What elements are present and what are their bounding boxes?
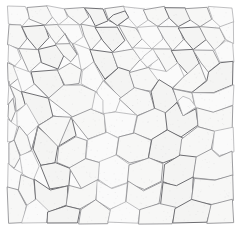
grain-speckle bbox=[116, 111, 117, 112]
grain-speckle bbox=[175, 61, 176, 62]
grain-speckle bbox=[178, 99, 179, 100]
grain-speckle bbox=[42, 107, 43, 108]
grain-speckle bbox=[166, 69, 167, 70]
grain-speckle bbox=[96, 134, 97, 135]
grain-speckle bbox=[51, 191, 52, 192]
grain-speckle bbox=[132, 58, 133, 59]
grain-speckle bbox=[31, 184, 32, 185]
grain-speckle bbox=[141, 203, 142, 204]
grain-speckle bbox=[77, 110, 78, 111]
grain-speckle bbox=[54, 203, 55, 204]
grain-speckle bbox=[130, 30, 131, 31]
grain-speckle bbox=[129, 146, 130, 147]
grain-speckle bbox=[105, 26, 106, 27]
grain-speckle bbox=[152, 102, 153, 103]
grain-speckle bbox=[92, 202, 93, 203]
grain-speckle bbox=[61, 171, 62, 172]
grain-speckle bbox=[15, 60, 16, 61]
grain-speckle bbox=[176, 14, 177, 15]
grain-speckle bbox=[223, 85, 224, 86]
grain-speckle bbox=[88, 143, 89, 144]
grain-speckle bbox=[121, 219, 122, 220]
grain-speckle bbox=[169, 149, 170, 150]
grain-speckle bbox=[196, 119, 197, 120]
grain-speckle bbox=[218, 121, 219, 122]
grain-speckle bbox=[39, 202, 40, 203]
grain-speckle bbox=[130, 181, 131, 182]
grain-speckle bbox=[28, 145, 29, 146]
grain-speckle bbox=[165, 153, 166, 154]
grain-speckle bbox=[175, 84, 176, 85]
grain-speckle bbox=[222, 123, 223, 124]
grain-speckle bbox=[63, 89, 64, 90]
grain-speckle bbox=[68, 68, 69, 69]
grain-speckle bbox=[25, 33, 26, 34]
grain-speckle bbox=[121, 81, 122, 82]
grain-speckle bbox=[188, 211, 189, 212]
grain-speckle bbox=[11, 14, 12, 15]
grain-speckle bbox=[130, 116, 131, 117]
grain-speckle bbox=[136, 71, 137, 72]
grain-speckle bbox=[68, 153, 69, 154]
micrograph-canvas bbox=[0, 0, 241, 234]
grain-speckle bbox=[148, 137, 149, 138]
grain-speckle bbox=[91, 79, 92, 80]
grain-speckle bbox=[171, 69, 172, 70]
grain-speckle bbox=[96, 113, 97, 114]
grain-speckle bbox=[38, 151, 39, 152]
grain-speckle bbox=[169, 216, 170, 217]
grain-speckle bbox=[223, 124, 224, 125]
grain-speckle bbox=[39, 28, 40, 29]
grain-speckle bbox=[183, 22, 184, 23]
grain-speckle bbox=[117, 101, 118, 102]
grain-speckle bbox=[203, 73, 204, 74]
grain-speckle bbox=[230, 182, 231, 183]
grain-speckle bbox=[130, 152, 131, 153]
grain-speckle bbox=[171, 210, 172, 211]
grain-speckle bbox=[141, 89, 142, 90]
grain-speckle bbox=[202, 139, 203, 140]
grain-speckle bbox=[21, 125, 22, 126]
grain-speckle bbox=[36, 108, 37, 109]
grain-speckle bbox=[93, 119, 94, 120]
grain-speckle bbox=[11, 63, 12, 64]
grain-speckle bbox=[12, 137, 13, 138]
grain-speckle bbox=[28, 206, 29, 207]
grain-speckle bbox=[81, 205, 82, 206]
grain-speckle bbox=[54, 86, 55, 87]
grain-speckle bbox=[229, 192, 230, 193]
grain-speckle bbox=[165, 116, 166, 117]
grain-speckle bbox=[20, 19, 21, 20]
grain-speckle bbox=[189, 135, 190, 136]
grain-speckle bbox=[164, 40, 165, 41]
grain-speckle bbox=[190, 215, 191, 216]
grain-speckle bbox=[129, 212, 130, 213]
grain-speckle bbox=[83, 153, 84, 154]
grain-speckle bbox=[165, 101, 166, 102]
grain-speckle bbox=[223, 110, 224, 111]
grain-speckle bbox=[107, 95, 108, 96]
grain-speckle bbox=[14, 121, 15, 122]
grain-speckle bbox=[208, 134, 209, 135]
grain-speckle bbox=[216, 73, 217, 74]
grain-speckle bbox=[59, 185, 60, 186]
grain-speckle bbox=[225, 218, 226, 219]
grain-speckle bbox=[210, 118, 211, 119]
grain-speckle bbox=[158, 19, 159, 20]
grain-speckle bbox=[37, 176, 38, 177]
grain-speckle bbox=[114, 57, 115, 58]
grain-speckle bbox=[65, 71, 66, 72]
grain-speckle bbox=[119, 90, 120, 91]
grain-speckle bbox=[199, 73, 200, 74]
grain-speckle bbox=[59, 64, 60, 65]
grain-speckle bbox=[48, 101, 49, 102]
grain-speckle bbox=[167, 212, 168, 213]
grain-speckle bbox=[169, 43, 170, 44]
grain-speckle bbox=[231, 139, 232, 140]
grain-speckle bbox=[156, 15, 157, 16]
grain-speckle bbox=[119, 180, 120, 181]
grain-speckle bbox=[231, 151, 232, 152]
grain-speckle bbox=[74, 81, 75, 82]
grain-speckle bbox=[216, 113, 217, 114]
grain-speckle bbox=[40, 9, 41, 10]
